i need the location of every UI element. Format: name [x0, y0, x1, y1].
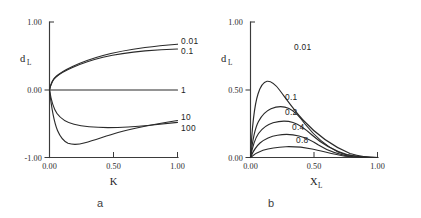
panel-a-curve-label-0: 0.01: [181, 36, 199, 46]
panel-a-curve-10: [50, 90, 178, 128]
panel-b-curve-0.01: [251, 81, 378, 157]
panel-b-ytick-label-2: 0.00: [228, 154, 243, 163]
panel-a-curve-0.1: [50, 49, 178, 90]
panel-b-curve-label-3: 0.4: [292, 122, 305, 132]
panel-b-curve-label-1: 0.1: [285, 92, 298, 102]
figure-svg: 1.00 0.00 -1.00 0.00 0.50 1.00 d L K 0.0…: [0, 0, 421, 218]
figure-container: 1.00 0.00 -1.00 0.00 0.50 1.00 d L K 0.0…: [0, 0, 421, 218]
panel-a-y-axis-title: d: [20, 53, 26, 64]
panel-b-caption: b: [268, 197, 274, 209]
panel-b-y-axis-title-subscript: L: [228, 59, 232, 67]
panel-b-curve-label-2: 0.2: [285, 107, 298, 117]
panel-b-xtick-label-1: 0.50: [307, 162, 322, 171]
panel-b-y-axis-title: d: [221, 53, 227, 64]
panel-b-ytick-label-0: 1.00: [228, 18, 243, 27]
panel-a-curve-0.01: [50, 44, 178, 90]
panel-a-curve-label-1: 0.1: [181, 46, 194, 56]
panel-b-x-axis-title-subscript: L: [318, 182, 322, 190]
panel-b: 1.00 0.50 0.00 0.00 0.50 1.00 d L X L 0.…: [221, 18, 385, 209]
panel-a-ytick-label-0: 1.00: [27, 18, 42, 27]
panel-a-ytick-label-1: 0.00: [27, 86, 42, 95]
panel-a-ytick-label-2: -1.00: [24, 154, 42, 163]
panel-a-curve-label-3: 10: [181, 112, 191, 122]
panel-b-ytick-label-1: 0.50: [228, 86, 243, 95]
panel-a-caption: a: [97, 197, 104, 209]
panel-b-xtick-label-0: 0.00: [243, 162, 258, 171]
panel-b-x-axis-title: X: [310, 176, 318, 187]
panel-a-curve-100: [50, 90, 178, 144]
panel-b-xtick-label-2: 1.00: [370, 162, 385, 171]
panel-a: 1.00 0.00 -1.00 0.00 0.50 1.00 d L K 0.0…: [20, 18, 199, 209]
panel-b-curve-label-4: 0.8: [296, 135, 309, 145]
panel-a-xtick-label-2: 1.00: [170, 162, 185, 171]
panel-a-curve-label-4: 100: [181, 123, 196, 133]
panel-b-curve-label-0: 0.01: [294, 42, 312, 52]
panel-a-curve-label-2: 1: [181, 85, 186, 95]
panel-a-xtick-label-1: 0.50: [106, 162, 121, 171]
panel-a-xtick-label-0: 0.00: [42, 162, 57, 171]
panel-a-x-axis-title: K: [110, 176, 118, 187]
panel-a-y-axis-title-subscript: L: [27, 59, 31, 67]
